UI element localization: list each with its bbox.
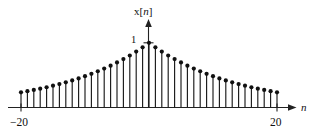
discrete-signal-plot: x[n] 1 n −20 20 (0, 0, 317, 132)
stem-marker (275, 90, 279, 94)
stem-marker (166, 53, 170, 57)
stem-marker (25, 89, 29, 93)
stem-marker (237, 82, 241, 86)
stem-marker (57, 82, 61, 86)
stem-marker (109, 64, 113, 68)
stem-marker (269, 89, 273, 93)
stem-marker (256, 87, 260, 91)
stem-marker (70, 78, 74, 82)
stem-marker (185, 64, 189, 68)
y-axis-label-close: ] (149, 5, 153, 17)
y-axis-label-base: x[ (134, 5, 144, 17)
stem-marker (89, 72, 93, 76)
stem-marker (19, 90, 23, 94)
stem-marker (147, 41, 151, 45)
stem-marker (45, 85, 49, 89)
stem-marker (230, 80, 234, 84)
stem-marker (205, 72, 209, 76)
stem-marker (262, 88, 266, 92)
x-axis-arrowhead (288, 104, 297, 111)
stem-marker (77, 76, 81, 80)
x-axis-label: n (301, 101, 307, 113)
stem-marker (115, 60, 119, 64)
stem-marker (83, 74, 87, 78)
x-tick-label-twenty: 20 (270, 116, 282, 128)
stem-marker (173, 57, 177, 61)
stem-marker (249, 85, 253, 89)
stem-marker (160, 49, 164, 53)
stem-marker (211, 74, 215, 78)
stem-marker (243, 84, 247, 88)
stem-marker (134, 49, 138, 53)
y-axis-label: x[n] (134, 5, 152, 17)
stem-marker (224, 78, 228, 82)
y-tick-label-one: 1 (131, 34, 136, 45)
stem-marker (102, 66, 106, 70)
stem-marker (51, 84, 55, 88)
stem-series (19, 41, 279, 108)
stem-marker (141, 45, 145, 49)
stem-marker (32, 88, 36, 92)
x-tick-label-minus-twenty: −20 (10, 116, 28, 128)
stem-marker (128, 53, 132, 57)
stem-marker (96, 69, 100, 73)
stem-marker (121, 57, 125, 61)
stem-marker (153, 45, 157, 49)
y-axis-arrowhead (145, 19, 152, 27)
stem-marker (64, 80, 68, 84)
stem-marker (217, 76, 221, 80)
stem-marker (192, 66, 196, 70)
stem-marker (198, 69, 202, 73)
stem-marker (179, 60, 183, 64)
stem-marker (38, 87, 42, 91)
stem-plot-figure: x[n] 1 n −20 20 (0, 0, 317, 132)
